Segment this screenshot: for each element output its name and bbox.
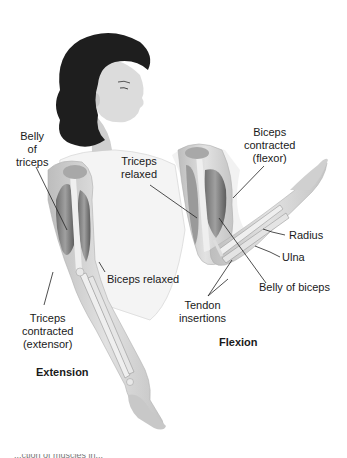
label-line: Biceps xyxy=(244,126,295,139)
label-belly-of-triceps: Belly of triceps xyxy=(16,130,48,169)
label-belly-of-biceps: Belly of biceps xyxy=(259,281,330,294)
label-line: relaxed xyxy=(121,168,157,181)
muscle-action-figure: Belly of triceps Biceps relaxed Triceps … xyxy=(0,0,347,458)
label-triceps-contracted: Triceps contracted (extensor) xyxy=(22,312,73,351)
label-line: Triceps xyxy=(121,155,157,168)
label-line: Triceps xyxy=(22,312,73,325)
label-line: contracted xyxy=(22,325,73,338)
label-line: Tendon xyxy=(179,299,226,312)
label-line: Belly xyxy=(16,130,48,143)
label-line: insertions xyxy=(179,312,226,325)
label-biceps-relaxed: Biceps relaxed xyxy=(107,273,179,286)
label-ulna: Ulna xyxy=(282,251,305,264)
label-triceps-relaxed: Triceps relaxed xyxy=(121,155,157,181)
label-line: triceps xyxy=(16,156,48,169)
label-biceps-contracted: Biceps contracted (flexor) xyxy=(244,126,295,165)
label-line: contracted xyxy=(244,139,295,152)
label-line: (flexor) xyxy=(244,152,295,165)
label-radius: Radius xyxy=(289,229,323,242)
label-tendon-insertions: Tendon insertions xyxy=(179,299,226,325)
label-line: (extensor) xyxy=(22,338,73,351)
title-extension: Extension xyxy=(36,366,89,378)
label-line: of xyxy=(16,143,48,156)
title-flexion: Flexion xyxy=(219,336,258,348)
